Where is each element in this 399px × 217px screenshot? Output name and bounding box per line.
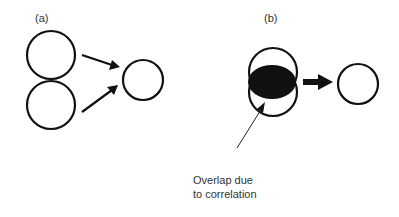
annotation-line-1: Overlap due: [193, 173, 257, 187]
overlap-annotation: Overlap due to correlation: [193, 173, 257, 201]
panel-b: [237, 48, 378, 148]
annotation-pointer-arrow: [237, 102, 265, 148]
panel-a-top-circle: [27, 31, 75, 79]
panel-a: [27, 31, 163, 129]
annotation-line-2: to correlation: [193, 187, 257, 201]
panel-b-label: (b): [264, 12, 277, 24]
panel-a-upper-arrow: [82, 55, 120, 70]
panel-a-result-circle: [123, 60, 163, 100]
panel-a-lower-arrow: [82, 85, 118, 112]
panel-b-result-circle: [338, 64, 378, 104]
panel-a-bottom-circle: [27, 81, 75, 129]
panel-b-thick-arrow: [303, 74, 333, 90]
panel-a-label: (a): [35, 12, 48, 24]
overlap-region: [248, 65, 296, 99]
